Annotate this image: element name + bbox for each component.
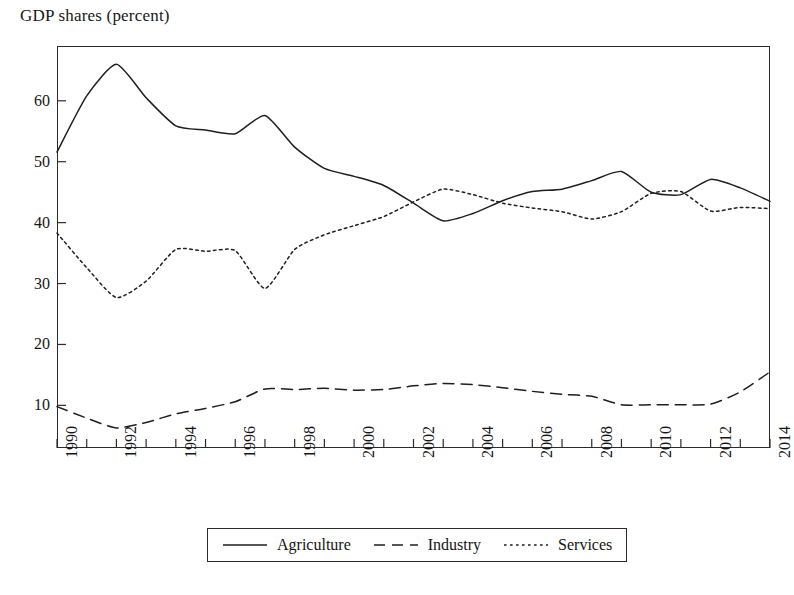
x-tick-label: 1994 [182,426,200,458]
x-tick-label: 1990 [63,426,81,458]
legend: AgricultureIndustryServices [207,528,627,562]
legend-label: Services [558,536,612,554]
x-tick-label: 1996 [241,426,259,458]
x-tick-label: 2002 [420,426,438,458]
x-tick-label: 2004 [479,426,497,458]
x-tick-label: 2014 [776,426,794,458]
legend-label: Agriculture [277,536,351,554]
x-tick-label: 2006 [538,426,556,458]
legend-swatch-solid [222,539,268,551]
legend-entry-industry: Industry [373,536,481,554]
x-tick-label: 1998 [301,426,319,458]
x-tick-label: 1992 [122,426,140,458]
legend-label: Industry [428,536,481,554]
legend-entry-agriculture: Agriculture [222,536,351,554]
x-tick-label: 2010 [657,426,675,458]
x-tick-label: 2012 [717,426,735,458]
legend-swatch-dashed [373,539,419,551]
legend-swatch-dotted [503,539,549,551]
x-tick-label: 2000 [360,426,378,458]
x-tick-label: 2008 [598,426,616,458]
legend-entry-services: Services [503,536,612,554]
